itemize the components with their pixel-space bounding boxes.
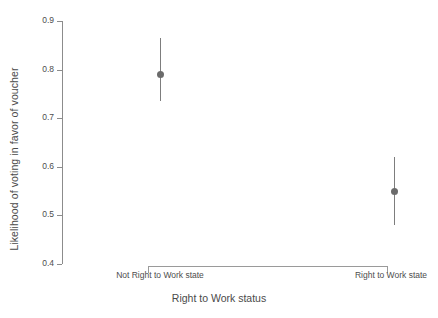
y-tick-label: 0.6 xyxy=(2,162,54,171)
y-tick-label: 0.7 xyxy=(2,113,54,122)
y-tick-label: 0.9 xyxy=(2,16,54,25)
chart-container: Likelihood of voting in favor of voucher… xyxy=(0,0,438,318)
y-tick-mark xyxy=(57,70,62,71)
y-tick-mark xyxy=(57,264,62,265)
plot-area xyxy=(63,21,437,264)
x-axis-title: Right to Work status xyxy=(0,292,438,304)
y-tick-label-wrap: 0.7 xyxy=(0,113,54,123)
y-tick-mark xyxy=(57,215,62,216)
data-point-marker xyxy=(157,71,164,78)
y-tick-label-wrap: 0.4 xyxy=(0,259,54,269)
y-tick-mark xyxy=(57,167,62,168)
x-tick-label-right-to-work: Right to Work state xyxy=(345,270,437,280)
y-tick-label-wrap: 0.9 xyxy=(0,16,54,26)
y-axis-title: Likelihood of voting in favor of voucher xyxy=(0,0,28,318)
y-tick-label-wrap: 0.5 xyxy=(0,210,54,220)
y-tick-label-wrap: 0.8 xyxy=(0,65,54,75)
y-tick-label: 0.4 xyxy=(2,259,54,268)
y-tick-mark xyxy=(57,21,62,22)
error-bar xyxy=(160,38,161,101)
y-tick-mark xyxy=(57,118,62,119)
y-tick-label-wrap: 0.6 xyxy=(0,162,54,172)
x-tick-label-not-right-to-work: Not Right to Work state xyxy=(105,270,215,280)
data-point-marker xyxy=(391,188,398,195)
y-tick-label: 0.8 xyxy=(2,65,54,74)
y-tick-label: 0.5 xyxy=(2,210,54,219)
